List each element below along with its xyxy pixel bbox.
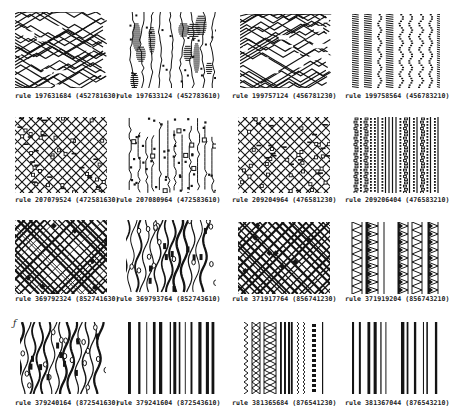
ca-pattern-image: [15, 12, 107, 88]
corner-mark: ƒ: [13, 318, 16, 328]
ca-pattern-image: [126, 12, 216, 88]
ca-pattern-image: [350, 322, 440, 394]
ca-pattern-image: [20, 322, 106, 394]
figure-grid: ƒ rule 197631684 (452781630)rule 1976331…: [0, 0, 462, 419]
ca-pattern-image: [126, 220, 216, 294]
panel-caption: rule 369792324 (852741630): [15, 295, 120, 303]
ca-pattern-image: [126, 117, 216, 193]
panel-caption: rule 209204964 (476581230): [232, 196, 337, 204]
ca-pattern-image: [126, 322, 216, 394]
panel-caption: rule 371919204 (856743210): [345, 295, 450, 303]
panel-caption: rule 371917764 (856741230): [232, 295, 337, 303]
ca-pattern-image: [15, 117, 107, 193]
panel-caption: rule 207080964 (472583610): [116, 196, 221, 204]
ca-pattern-image: [242, 322, 332, 394]
panel-caption: rule 197633124 (452783610): [116, 92, 221, 100]
panel-caption: rule 197631684 (452781630): [15, 92, 120, 100]
ca-pattern-image: [238, 117, 330, 193]
panel-caption: rule 209206404 (476583210): [345, 196, 450, 204]
ca-pattern-image: [352, 117, 440, 193]
panel-caption: rule 369793764 (852743610): [116, 295, 221, 303]
ca-pattern-image: [240, 14, 332, 88]
ca-pattern-image: [238, 222, 330, 294]
ca-pattern-image: [350, 14, 440, 88]
ca-pattern-image: [350, 222, 440, 294]
panel-caption: rule 379241604 (872543610): [116, 399, 221, 407]
panel-caption: rule 199758564 (456783210): [345, 92, 450, 100]
panel-caption: rule 379240164 (872541630): [15, 399, 120, 407]
panel-caption: rule 199757124 (456781230): [232, 92, 337, 100]
panel-caption: rule 207079524 (472581630): [15, 196, 120, 204]
ca-pattern-image: [15, 220, 107, 294]
panel-caption: rule 381365684 (876541230): [232, 399, 337, 407]
panel-caption: rule 381367044 (876543210): [345, 399, 450, 407]
